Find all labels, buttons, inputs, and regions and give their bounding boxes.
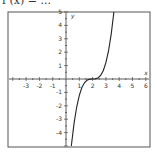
y-tick-label: 4	[58, 21, 62, 28]
y-tick-label: 3	[58, 35, 62, 42]
x-tick-label: -1	[50, 82, 56, 89]
x-axis-label: x	[143, 69, 148, 76]
y-axis-label: y	[70, 12, 75, 20]
x-tick-label: 5	[131, 82, 135, 89]
x-tick-label: 4	[117, 82, 121, 89]
function-plot: -3-2-1123456-4-3-2-112345xy	[0, 0, 157, 154]
y-tick-label: 1	[58, 62, 62, 69]
x-tick-label: -3	[23, 82, 29, 89]
x-tick-label: 2	[91, 82, 95, 89]
y-tick-label: -1	[56, 88, 62, 95]
y-tick-label: -4	[56, 129, 62, 136]
x-tick-label: -2	[36, 82, 42, 89]
x-tick-label: 3	[104, 82, 108, 89]
y-tick-label: 5	[58, 8, 62, 15]
x-tick-label: 6	[144, 82, 148, 89]
x-tick-label: 1	[77, 82, 81, 89]
y-tick-label: -2	[56, 102, 62, 109]
y-tick-label: -3	[56, 115, 62, 122]
ticks: -3-2-1123456-4-3-2-112345xy	[13, 8, 148, 146]
y-tick-label: 2	[58, 48, 62, 55]
